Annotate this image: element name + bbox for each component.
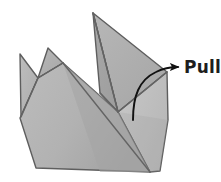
origami-diagram-figure: Pull bbox=[0, 0, 221, 182]
origami-illustration bbox=[0, 0, 221, 182]
origami-paper-faces bbox=[20, 13, 168, 172]
pull-annotation-label: Pull bbox=[184, 59, 221, 76]
